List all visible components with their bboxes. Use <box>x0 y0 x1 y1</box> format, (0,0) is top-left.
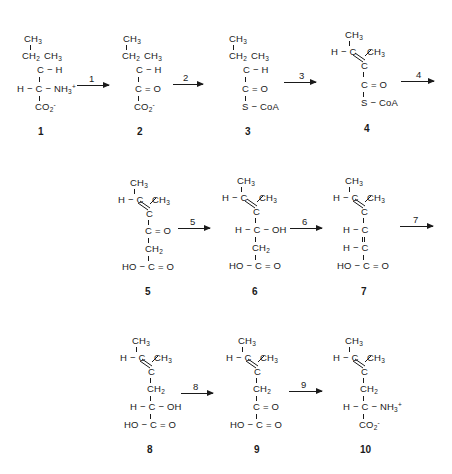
arrow-label-4: 4 <box>416 69 421 80</box>
reaction-arrow-9 <box>289 391 322 392</box>
arrow-label-8: 8 <box>193 381 198 392</box>
reaction-arrow-3 <box>284 82 316 83</box>
arrow-label-7: 7 <box>413 214 418 225</box>
compound-label: 3 <box>245 126 251 137</box>
reaction-arrow-5 <box>178 228 210 229</box>
arrow-label-9: 9 <box>301 379 306 390</box>
compound-label: 10 <box>360 444 371 455</box>
compound-label: 9 <box>254 444 260 455</box>
compound-label: 4 <box>364 123 370 134</box>
reaction-arrow-6 <box>290 228 322 229</box>
compound-label: 2 <box>137 126 143 137</box>
reaction-arrow-1 <box>77 85 109 86</box>
compound-label: 5 <box>145 286 151 297</box>
compound-label: 6 <box>252 286 258 297</box>
compound-label: 1 <box>38 126 44 137</box>
compound-label: 7 <box>361 286 367 297</box>
arrow-label-5: 5 <box>190 216 195 227</box>
reaction-arrow-8 <box>181 393 213 394</box>
arrow-label-3: 3 <box>299 70 304 81</box>
reaction-arrow-2 <box>173 84 203 85</box>
reaction-arrow-4 <box>401 81 434 82</box>
arrow-label-2: 2 <box>183 72 188 83</box>
compound-label: 8 <box>147 444 153 455</box>
arrow-label-1: 1 <box>89 73 94 84</box>
arrow-label-6: 6 <box>302 216 307 227</box>
reaction-arrow-7 <box>400 226 433 227</box>
